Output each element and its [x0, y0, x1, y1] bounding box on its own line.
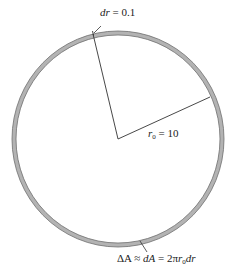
annulus-diagram [0, 0, 234, 272]
dr-value: = 0.1 [110, 6, 135, 18]
area-formula-label: ΔA ≈ dA = 2πr0dr [117, 253, 196, 264]
dr-label: dr = 0.1 [100, 7, 135, 18]
r0-value: = 10 [156, 127, 179, 139]
r0-label: r0 = 10 [148, 128, 179, 139]
dr-var: dr [100, 6, 110, 18]
da-var: dA [143, 252, 155, 264]
two-pi: = 2π [155, 252, 178, 264]
delta-a: ΔA ≈ [117, 252, 143, 264]
dr-var-formula: dr [186, 252, 196, 264]
dr-leader [94, 26, 101, 33]
